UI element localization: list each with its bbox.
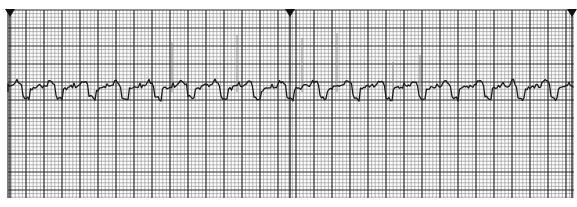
grid-minor-lines: [8, 10, 574, 198]
ecg-strip: [0, 0, 577, 207]
grid-major-lines: [8, 10, 574, 198]
